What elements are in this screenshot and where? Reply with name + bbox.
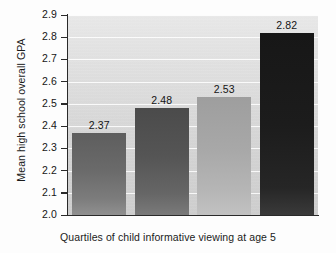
gridline: [68, 15, 318, 16]
y-axis-tick-label: 2.7: [42, 52, 57, 64]
bar: [72, 133, 126, 215]
y-axis-tick-label: 2.5: [42, 97, 57, 109]
bar: [197, 97, 251, 215]
bar-value-label: 2.48: [135, 94, 189, 106]
y-axis-tick: [61, 215, 68, 216]
y-axis-tick-label: 2.1: [42, 186, 57, 198]
y-axis-tick-label: 2.6: [42, 75, 57, 87]
bar-value-label: 2.37: [72, 119, 126, 131]
plot-area: [68, 15, 318, 215]
y-axis-tick-label: 2.2: [42, 164, 57, 176]
bar-value-label: 2.82: [260, 19, 314, 31]
y-axis-tick: [61, 170, 68, 171]
bar-value-label: 2.53: [197, 83, 251, 95]
x-axis-line: [61, 215, 319, 216]
bar-chart-figure: Mean high school overall GPA 2.92.82.72.…: [0, 0, 336, 253]
y-axis-tick-label: 2.9: [42, 8, 57, 20]
y-axis-tick: [61, 37, 68, 38]
y-axis-tick: [61, 192, 68, 193]
y-axis-tick: [61, 148, 68, 149]
y-axis-tick: [61, 103, 68, 104]
y-axis-title: Mean high school overall GPA: [15, 5, 27, 215]
y-axis-tick: [61, 126, 68, 127]
y-axis-tick-label: 2.3: [42, 141, 57, 153]
y-axis-tick-label: 2.0: [42, 208, 57, 220]
y-axis-tick-label: 2.8: [42, 30, 57, 42]
y-axis-tick: [61, 15, 68, 16]
bar: [135, 108, 189, 215]
bar: [260, 33, 314, 215]
y-axis-tick: [61, 81, 68, 82]
y-axis-tick: [61, 59, 68, 60]
x-axis-title: Quartiles of child informative viewing a…: [0, 231, 336, 243]
y-axis-tick-label: 2.4: [42, 119, 57, 131]
